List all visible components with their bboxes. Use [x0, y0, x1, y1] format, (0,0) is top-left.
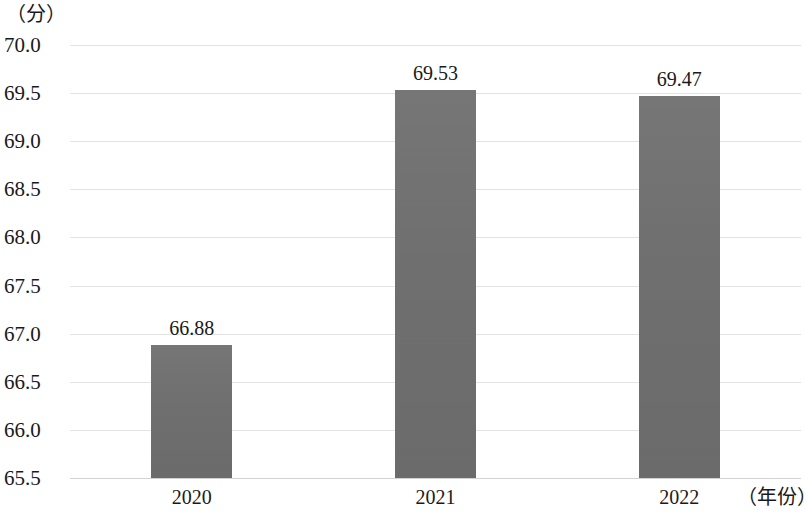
y-axis-tick-label: 69.0 [4, 131, 66, 152]
y-axis-tick-labels: 70.069.569.068.568.067.567.066.566.065.5 [4, 45, 66, 478]
y-axis-tick-label: 66.5 [4, 372, 66, 393]
plot-area: 66.8869.5369.47 [70, 45, 801, 478]
x-axis-tick-label: 2021 [416, 487, 456, 507]
bar-value-label: 66.88 [169, 318, 214, 338]
bar-value-label: 69.47 [657, 69, 702, 89]
y-axis-unit-label: （分） [6, 4, 66, 24]
bar-group: 69.47 [639, 45, 720, 478]
y-axis-tick-label: 66.0 [4, 420, 66, 441]
x-axis-tick-label: 2022 [659, 487, 699, 507]
bar-chart: （分） 70.069.569.068.568.067.567.066.566.0… [0, 0, 805, 513]
bar-group: 69.53 [395, 45, 476, 478]
y-axis-tick-label: 69.5 [4, 83, 66, 104]
y-axis-tick-label: 68.0 [4, 227, 66, 248]
bar-group: 66.88 [151, 45, 232, 478]
bar-value-label: 69.53 [413, 63, 458, 83]
gridline [70, 478, 801, 479]
x-axis-unit-label: （年份） [737, 487, 805, 507]
bar[interactable] [151, 345, 232, 478]
y-axis-tick-label: 67.0 [4, 324, 66, 345]
y-axis-tick-label: 67.5 [4, 276, 66, 297]
bar[interactable] [395, 90, 476, 478]
y-axis-tick-label: 68.5 [4, 179, 66, 200]
y-axis-tick-label: 70.0 [4, 35, 66, 56]
x-axis-tick-label: 2020 [172, 487, 212, 507]
y-axis-tick-label: 65.5 [4, 468, 66, 489]
bar[interactable] [639, 96, 720, 478]
